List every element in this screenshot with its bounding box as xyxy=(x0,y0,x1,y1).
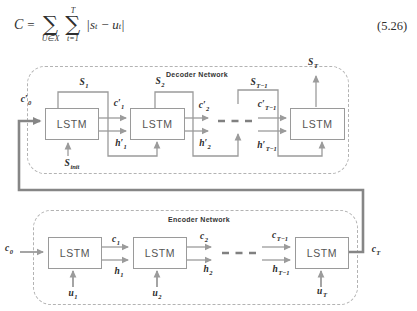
label-u2: u2 xyxy=(152,289,161,300)
label-st: ST xyxy=(308,58,318,69)
encoder-lstm-last: LSTM xyxy=(295,237,349,269)
label-c-prime-0: c′0 xyxy=(21,95,32,106)
label-u1: u1 xyxy=(68,289,77,300)
label-c0: c0 xyxy=(5,244,13,255)
label-c2: c2 xyxy=(200,232,208,243)
label-st-1: ST−1 xyxy=(251,78,268,89)
label-ct: cT xyxy=(372,245,381,256)
label-h-prime-2: h′2 xyxy=(199,139,211,150)
page: C = ∑ U∈X T ∑ t=1 |st−ut| (5.26) xyxy=(0,0,417,311)
label-h1: h1 xyxy=(114,267,123,278)
label-c-prime-1: c′1 xyxy=(114,99,125,110)
connector-ct-to-c0 xyxy=(19,121,363,252)
label-s2: S2 xyxy=(155,77,164,88)
encoder-lstm-2: LSTM xyxy=(133,237,187,269)
decoder-network-title: Decoder Network xyxy=(166,71,228,78)
label-h-prime-1: h′1 xyxy=(115,139,127,150)
label-ct-1: cT−1 xyxy=(272,231,288,242)
label-h-prime-t-1: h′T−1 xyxy=(257,141,277,152)
label-c-prime-2: c′2 xyxy=(199,101,210,112)
label-s-init: Sinit xyxy=(65,159,80,170)
label-ht-1: hT−1 xyxy=(273,265,290,276)
label-s1: S1 xyxy=(79,78,88,89)
encoder-network-title: Encoder Network xyxy=(168,216,230,223)
label-c-prime-t-1: c′T−1 xyxy=(258,100,277,111)
decoder-lstm-last: LSTM xyxy=(290,108,345,140)
label-h2: h2 xyxy=(203,265,212,276)
decoder-lstm-1: LSTM xyxy=(45,108,99,140)
decoder-lstm-2: LSTM xyxy=(130,108,185,140)
label-ut: uT xyxy=(317,287,327,298)
label-c1: c1 xyxy=(112,235,120,246)
encoder-lstm-1: LSTM xyxy=(48,237,102,269)
